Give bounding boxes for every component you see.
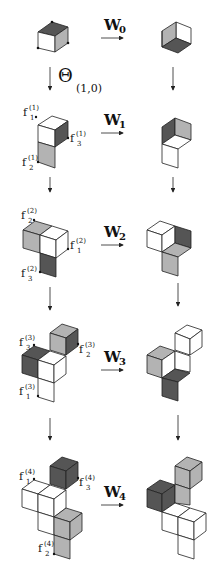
svg-text:(2): (2): [76, 237, 86, 245]
w3-arrow: W 3: [101, 348, 126, 370]
theta-subscript: (1,0): [76, 82, 102, 95]
svg-text:2: 2: [28, 217, 32, 225]
svg-text:f: f: [70, 132, 75, 145]
row-0-left-cube: [37, 21, 70, 52]
w0-arrow: W 0: [101, 16, 126, 38]
svg-text:1: 1: [119, 119, 126, 130]
svg-text:2: 2: [86, 351, 90, 359]
row-0-right-cube: [162, 22, 191, 53]
svg-text:(1): (1): [28, 154, 38, 162]
row-2-right-shape: [147, 221, 191, 276]
svg-text:3: 3: [86, 484, 90, 492]
svg-text:1: 1: [26, 393, 30, 401]
svg-text:2: 2: [45, 550, 49, 558]
svg-text:f: f: [21, 267, 26, 280]
svg-text:(4): (4): [44, 540, 54, 548]
svg-text:f: f: [79, 343, 84, 356]
svg-text:3: 3: [28, 275, 32, 283]
svg-text:f: f: [19, 470, 24, 483]
svg-text:(1): (1): [29, 104, 39, 112]
w2-arrow: W 2: [101, 223, 126, 245]
svg-text:4: 4: [119, 491, 126, 502]
svg-text:f: f: [19, 336, 24, 349]
svg-text:3: 3: [119, 356, 126, 367]
row-4-right-shape: [147, 457, 206, 559]
w1-arrow: W 1: [101, 111, 126, 133]
row-1-left-shape: [35, 116, 69, 168]
svg-text:2: 2: [119, 231, 126, 242]
theta-symbol: Θ: [58, 65, 73, 86]
row-1-right-shape: [162, 118, 191, 168]
svg-text:(3): (3): [25, 383, 35, 391]
svg-text:f: f: [79, 476, 84, 489]
svg-text:(3): (3): [25, 334, 35, 342]
w4-arrow: W 4: [101, 483, 126, 505]
svg-text:3: 3: [77, 140, 81, 148]
svg-text:f: f: [21, 209, 26, 222]
svg-text:(1): (1): [76, 130, 86, 138]
svg-text:1: 1: [26, 478, 30, 486]
svg-text:1: 1: [77, 247, 81, 255]
svg-text:f: f: [19, 385, 24, 398]
svg-text:f: f: [22, 156, 27, 169]
svg-text:f: f: [38, 542, 43, 555]
svg-text:(2): (2): [27, 207, 37, 215]
svg-text:(4): (4): [85, 474, 95, 482]
svg-text:(3): (3): [85, 341, 95, 349]
svg-text:f: f: [23, 106, 28, 119]
svg-text:0: 0: [119, 24, 126, 35]
theta-arrow: Θ (1,0): [50, 65, 102, 95]
svg-text:(4): (4): [25, 468, 35, 476]
svg-text:f: f: [70, 239, 75, 252]
row-3-right-shape: [147, 325, 202, 401]
svg-text:1: 1: [30, 114, 34, 122]
svg-text:(2): (2): [27, 265, 37, 273]
svg-text:3: 3: [26, 344, 30, 352]
diagram-canvas: W 0 Θ (1,0) f (1) 1 f (1) 3 f (1) 2 W 1: [0, 0, 222, 572]
svg-text:2: 2: [29, 164, 33, 172]
